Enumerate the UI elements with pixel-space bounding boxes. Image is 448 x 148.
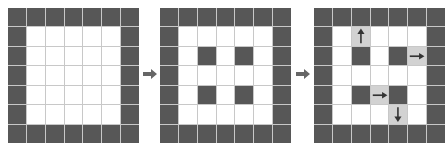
empty-cell [198, 105, 216, 123]
empty-cell [83, 66, 101, 84]
empty-cell [102, 47, 120, 65]
empty-cell [371, 66, 389, 84]
empty-cell [333, 66, 351, 84]
obstacle-cell [352, 86, 370, 104]
wall-cell [217, 125, 235, 143]
wall-cell [314, 47, 332, 65]
wall-cell [8, 47, 26, 65]
empty-cell [217, 86, 235, 104]
wall-cell [352, 8, 370, 26]
empty-cell [102, 27, 120, 45]
empty-cell [46, 105, 64, 123]
wall-cell [273, 47, 291, 65]
wall-cell [254, 125, 272, 143]
grid-panel-3 [314, 8, 445, 143]
wall-cell [102, 8, 120, 26]
empty-cell [217, 105, 235, 123]
grid-panel-2 [160, 8, 291, 143]
wall-cell [121, 47, 139, 65]
empty-cell [198, 27, 216, 45]
wall-cell [427, 66, 445, 84]
empty-cell [254, 86, 272, 104]
obstacle-cell [198, 47, 216, 65]
wall-cell [65, 125, 83, 143]
wall-cell [273, 8, 291, 26]
empty-cell [389, 66, 407, 84]
wall-cell [371, 8, 389, 26]
empty-cell [46, 27, 64, 45]
empty-cell [371, 105, 389, 123]
arrow-down-icon [389, 105, 407, 123]
wall-cell [314, 27, 332, 45]
empty-cell [27, 47, 45, 65]
wall-cell [427, 125, 445, 143]
wall-cell [8, 8, 26, 26]
wall-cell [160, 105, 178, 123]
wall-cell [198, 8, 216, 26]
wall-cell [217, 8, 235, 26]
obstacle-cell [389, 86, 407, 104]
empty-cell [408, 86, 426, 104]
wall-cell [46, 8, 64, 26]
empty-cell [179, 86, 197, 104]
wall-cell [27, 8, 45, 26]
obstacle-cell [235, 47, 253, 65]
move-cell [352, 27, 370, 45]
wall-cell [427, 86, 445, 104]
empty-cell [333, 86, 351, 104]
empty-cell [46, 86, 64, 104]
empty-cell [179, 27, 197, 45]
wall-cell [314, 125, 332, 143]
wall-cell [160, 27, 178, 45]
wall-cell [121, 8, 139, 26]
empty-cell [389, 27, 407, 45]
wall-cell [160, 47, 178, 65]
wall-cell [160, 8, 178, 26]
wall-cell [83, 8, 101, 26]
wall-cell [371, 125, 389, 143]
empty-cell [408, 66, 426, 84]
empty-cell [46, 47, 64, 65]
wall-cell [273, 27, 291, 45]
empty-cell [371, 47, 389, 65]
empty-cell [46, 66, 64, 84]
grid-panel-1 [8, 8, 139, 143]
step-arrow-icon [143, 69, 157, 79]
empty-cell [254, 66, 272, 84]
wall-cell [314, 8, 332, 26]
wall-cell [427, 105, 445, 123]
empty-cell [254, 47, 272, 65]
obstacle-cell [198, 86, 216, 104]
empty-cell [235, 105, 253, 123]
empty-cell [102, 105, 120, 123]
wall-cell [46, 125, 64, 143]
empty-cell [83, 47, 101, 65]
empty-cell [65, 105, 83, 123]
empty-cell [198, 66, 216, 84]
wall-cell [179, 125, 197, 143]
empty-cell [83, 27, 101, 45]
wall-cell [333, 8, 351, 26]
empty-cell [27, 105, 45, 123]
wall-cell [8, 27, 26, 45]
wall-cell [121, 86, 139, 104]
empty-cell [179, 47, 197, 65]
wall-cell [273, 105, 291, 123]
empty-cell [352, 66, 370, 84]
empty-cell [217, 47, 235, 65]
wall-cell [408, 8, 426, 26]
wall-cell [408, 125, 426, 143]
wall-cell [273, 125, 291, 143]
wall-cell [198, 125, 216, 143]
empty-cell [65, 86, 83, 104]
empty-cell [65, 27, 83, 45]
empty-cell [235, 27, 253, 45]
wall-cell [254, 8, 272, 26]
empty-cell [83, 105, 101, 123]
wall-cell [179, 8, 197, 26]
wall-cell [121, 66, 139, 84]
wall-cell [83, 125, 101, 143]
empty-cell [217, 27, 235, 45]
empty-cell [179, 105, 197, 123]
empty-cell [333, 105, 351, 123]
